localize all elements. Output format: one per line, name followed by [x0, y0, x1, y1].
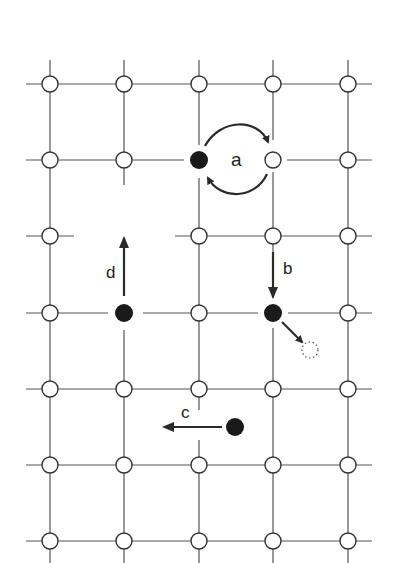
label-d: d [106, 264, 115, 281]
arrow-a-bottom [208, 174, 267, 194]
filled-atom-b [264, 304, 282, 322]
label-c: c [181, 404, 190, 421]
arrow-a-top [205, 124, 268, 146]
label-b: b [283, 260, 292, 277]
dotted-interstitial-site [302, 342, 318, 358]
arrow-b-diagonal [282, 322, 302, 342]
interstitial-atom-c [226, 418, 244, 436]
label-a: a [231, 150, 242, 169]
lattice-diagram [0, 0, 398, 563]
filled-atom-a [190, 151, 208, 169]
filled-atom-d [115, 304, 133, 322]
